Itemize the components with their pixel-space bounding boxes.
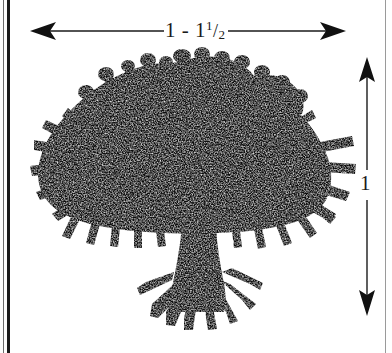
height-dimension-label: 1 — [360, 173, 371, 194]
figure-canvas: 1 - 11/2 1 — [0, 0, 392, 353]
width-label-separator: - — [182, 18, 190, 42]
width-label-frac-denominator: 2 — [219, 27, 226, 42]
width-label-mixed-whole: 1 — [195, 18, 206, 42]
width-label-whole: 1 — [165, 18, 176, 42]
width-label-mixed-number: 11/2 — [195, 18, 226, 42]
width-dimension-label: 1 - 11/2 — [165, 20, 226, 41]
width-label-frac-numerator: 1 — [206, 18, 213, 33]
dimension-arrows-layer — [0, 0, 392, 353]
